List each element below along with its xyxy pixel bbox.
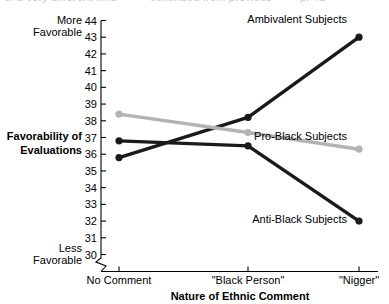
data-point <box>355 217 362 224</box>
y-tick-label: 40 <box>85 81 97 93</box>
y-tick-label: 34 <box>85 182 97 194</box>
y-axis-tick-labels: 303132333435363738394041424344 <box>85 15 97 261</box>
axis-break-zigzag <box>96 255 106 272</box>
data-point <box>115 154 122 161</box>
y-tick-label: 44 <box>85 15 97 27</box>
x-axis-title: Nature of Ethnic Comment <box>171 290 310 302</box>
y-tick-label: 36 <box>85 148 97 160</box>
y-axis-note-less: Less <box>59 242 83 254</box>
series-lines-group <box>119 37 359 221</box>
data-point <box>355 146 362 153</box>
y-axis-note-more: More <box>57 14 82 26</box>
y-tick-label: 30 <box>85 249 97 261</box>
series-label: Pro-Black Subjects <box>254 130 347 142</box>
y-axis-title-line2: Evaluations <box>20 144 82 156</box>
y-tick-label: 39 <box>85 98 97 110</box>
series-line <box>119 141 359 221</box>
x-tick-label: "Black Person" <box>212 274 285 286</box>
x-axis-ticks <box>119 267 359 272</box>
y-tick-label: 42 <box>85 48 97 60</box>
series-labels-group: Ambivalent SubjectsPro-Black SubjectsAnt… <box>247 13 347 225</box>
y-axis-note-favorable-bottom: Favorable <box>33 254 82 266</box>
y-tick-label: 32 <box>85 215 97 227</box>
data-point <box>115 137 122 144</box>
y-tick-label: 38 <box>85 115 97 127</box>
y-tick-label: 41 <box>85 65 97 77</box>
data-point <box>244 142 251 149</box>
y-tick-label: 37 <box>85 132 97 144</box>
x-tick-label: "Nigger" <box>339 274 379 286</box>
data-point <box>244 114 251 121</box>
y-axis-note-favorable-top: Favorable <box>33 26 82 38</box>
x-tick-label: No Comment <box>87 274 152 286</box>
y-tick-label: 35 <box>85 165 97 177</box>
y-axis-ticks <box>101 21 106 255</box>
series-label: Ambivalent Subjects <box>247 13 347 25</box>
data-point <box>244 129 251 136</box>
y-tick-label: 33 <box>85 198 97 210</box>
line-chart-svg: 303132333435363738394041424344 No Commen… <box>0 0 389 304</box>
y-tick-label: 43 <box>85 31 97 43</box>
x-axis-tick-labels: No Comment"Black Person""Nigger" <box>87 274 380 286</box>
data-point <box>355 34 362 41</box>
y-axis-title-line1: Favorability of <box>7 130 83 142</box>
y-tick-label: 31 <box>85 232 97 244</box>
data-point <box>115 111 122 118</box>
series-label: Anti-Black Subjects <box>252 213 347 225</box>
chart-figure: of a very different kind continued from … <box>0 0 389 304</box>
